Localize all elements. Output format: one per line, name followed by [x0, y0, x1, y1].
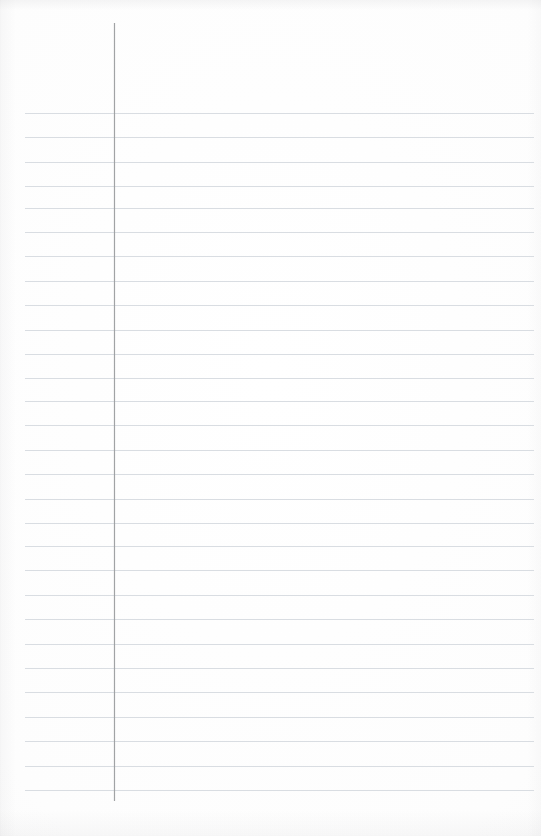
left-margin-gutter[interactable] — [0, 113, 114, 790]
lined-paper-page — [0, 0, 541, 836]
rule-line — [25, 790, 534, 791]
writing-area[interactable] — [115, 113, 541, 790]
header-space[interactable] — [0, 0, 541, 113]
